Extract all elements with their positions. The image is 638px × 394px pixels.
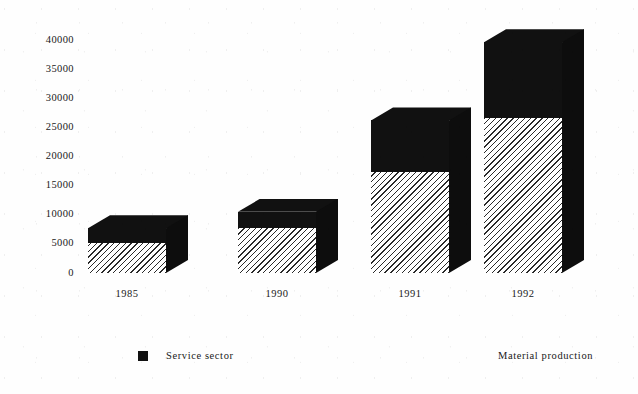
legend-entry[interactable]: Material production [470,350,593,361]
bar-chart: 0500010000150002000025000300003500040000… [0,0,638,394]
bar-group [0,0,638,394]
legend-label: Material production [498,350,593,361]
bar-segment-service-sector [484,42,562,118]
legend-entry[interactable]: Service sector [138,350,234,361]
legend-label: Service sector [166,350,234,361]
bar-side-face [562,29,584,273]
chart-legend: Service sectorMaterial production [0,346,638,376]
bar-segment-material-production [484,118,562,273]
legend-swatch-icon [138,351,148,361]
plot-area: 0500010000150002000025000300003500040000… [0,0,638,394]
